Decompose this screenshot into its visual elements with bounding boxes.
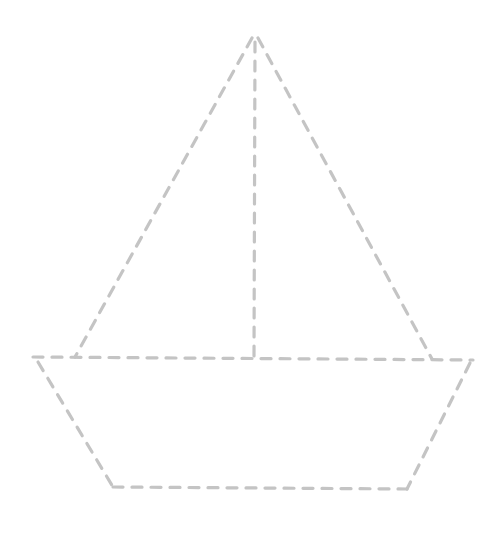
sail-right-edge [258,38,432,359]
hull-right-edge [407,363,470,489]
mast [254,42,255,357]
hull-bottom-edge [113,487,407,489]
sail-left-edge [75,38,252,357]
sailboat-tracing-canvas [0,0,501,533]
sailboat-outline [0,0,501,533]
hull-left-edge [38,362,113,487]
deck-line [33,357,473,360]
